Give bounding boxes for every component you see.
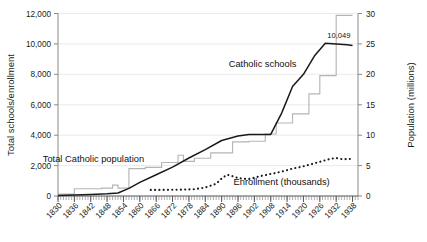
- left-axis-tick-labels: 02,0004,0006,0008,00010,00012,000: [26, 10, 51, 202]
- x-tick-label: 1926: [306, 201, 326, 221]
- x-tick-label: 1842: [77, 201, 97, 221]
- left-tick-label: 0: [46, 192, 51, 201]
- x-tick-label: 1914: [274, 201, 294, 221]
- x-tick-label: 1860: [126, 201, 146, 221]
- right-tick-label: 30: [366, 10, 376, 19]
- right-tick-label: 15: [366, 101, 376, 110]
- right-tick-label: 25: [366, 40, 376, 49]
- left-axis-title: Total schools/enrollment: [5, 54, 16, 156]
- x-tick-label: 1890: [208, 201, 228, 221]
- x-tick-label: 1866: [143, 201, 163, 221]
- left-axis: [54, 14, 58, 197]
- right-tick-label: 5: [366, 162, 371, 171]
- right-tick-label: 10: [366, 131, 376, 140]
- x-tick-label: 1830: [45, 201, 65, 221]
- catholic-schools-label: Catholic schools: [229, 59, 297, 69]
- x-tick-label: 1932: [323, 201, 343, 221]
- right-tick-label: 0: [366, 192, 371, 201]
- x-tick-label: 1920: [290, 201, 310, 221]
- x-tick-label: 1902: [241, 201, 261, 221]
- x-axis-major-ticks: [58, 196, 353, 202]
- x-tick-label: 1896: [225, 201, 245, 221]
- left-tick-label: 4,000: [31, 131, 52, 140]
- total-catholic-population-label: Total Catholic population: [43, 154, 144, 164]
- chart-annotations: Catholic schoolsTotal Catholic populatio…: [43, 31, 351, 188]
- x-tick-label: 1908: [257, 201, 277, 221]
- x-tick-label: 1878: [176, 201, 196, 221]
- x-tick-label: 1836: [61, 201, 81, 221]
- x-tick-label: 1872: [159, 201, 179, 221]
- left-tick-label: 12,000: [26, 10, 51, 19]
- x-tick-label: 1854: [110, 201, 130, 221]
- gridlines: [58, 14, 358, 166]
- enrollment-label: Enrollment (thousands): [234, 177, 330, 187]
- chart-svg: 02,0004,0006,0008,00010,00012,000 051015…: [0, 0, 427, 242]
- series-catholic-schools: [58, 43, 353, 195]
- left-tick-label: 8,000: [31, 70, 52, 79]
- x-axis-tick-labels: 1830183618421848185418601866187218781884…: [45, 201, 359, 221]
- right-tick-label: 20: [366, 70, 376, 79]
- x-tick-label: 1848: [94, 201, 114, 221]
- right-axis: [358, 14, 362, 197]
- schools-endpoint-value-label: 10,049: [327, 31, 350, 40]
- right-axis-title: Population (millions): [405, 62, 416, 148]
- left-tick-label: 6,000: [31, 101, 52, 110]
- x-tick-label: 1884: [192, 201, 212, 221]
- x-axis-minor-ticks: [58, 196, 358, 200]
- x-tick-label: 1938: [339, 201, 359, 221]
- left-tick-label: 10,000: [26, 40, 51, 49]
- right-axis-tick-labels: 051015202530: [366, 10, 376, 202]
- chart-container: 02,0004,0006,0008,00010,00012,000 051015…: [0, 0, 427, 242]
